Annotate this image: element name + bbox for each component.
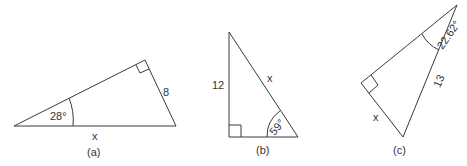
side-label-c-13: 13 (431, 73, 447, 89)
side-label-a-8: 8 (163, 86, 169, 98)
triangle-b-outline (229, 32, 298, 137)
triangle-a: 28° 8 x (a) (14, 60, 176, 158)
right-angle-marker-b (229, 125, 241, 137)
angle-label-c: 22.62° (434, 18, 462, 51)
caption-a: (a) (87, 146, 100, 158)
triangle-a-outline (14, 60, 176, 126)
angle-label-a: 28° (50, 110, 67, 122)
side-label-b-12: 12 (212, 79, 224, 91)
triangle-c: 22.62° 13 x (c) (361, 5, 462, 156)
angle-label-b: 59° (267, 117, 287, 137)
side-label-c-x: x (373, 111, 379, 123)
side-label-a-x: x (92, 130, 98, 142)
right-angle-marker-c (369, 75, 378, 93)
triangle-diagrams: 28° 8 x (a) 59° 12 x (b) 22.62° 13 x (c) (0, 0, 467, 166)
right-angle-marker-a (136, 65, 149, 73)
angle-arc-a (69, 98, 73, 126)
caption-c: (c) (393, 144, 406, 156)
caption-b: (b) (256, 144, 269, 156)
triangle-b: 59° 12 x (b) (212, 32, 298, 156)
side-label-b-x: x (267, 72, 273, 84)
